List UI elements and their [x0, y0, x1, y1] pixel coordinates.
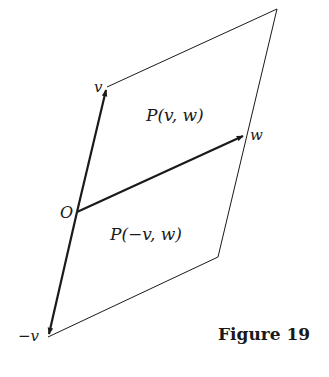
label-origin: O — [60, 203, 73, 222]
figure-caption: Figure 19 — [218, 324, 310, 344]
vector-neg-v-arrow — [49, 212, 77, 334]
region-label-lower: P(−v, w) — [109, 224, 182, 244]
label-w: w — [250, 126, 263, 144]
right-edge — [218, 9, 277, 257]
vector-w-arrow — [77, 136, 243, 212]
parallelogram-diagram: v w O −v P(v, w) P(−v, w) Figure 19 — [0, 0, 329, 377]
top-edge — [107, 9, 277, 87]
vector-v-arrow — [77, 90, 106, 212]
bottom-edge — [48, 257, 218, 337]
label-neg-v: −v — [18, 327, 40, 345]
label-v: v — [94, 78, 103, 96]
region-label-upper: P(v, w) — [145, 105, 204, 125]
